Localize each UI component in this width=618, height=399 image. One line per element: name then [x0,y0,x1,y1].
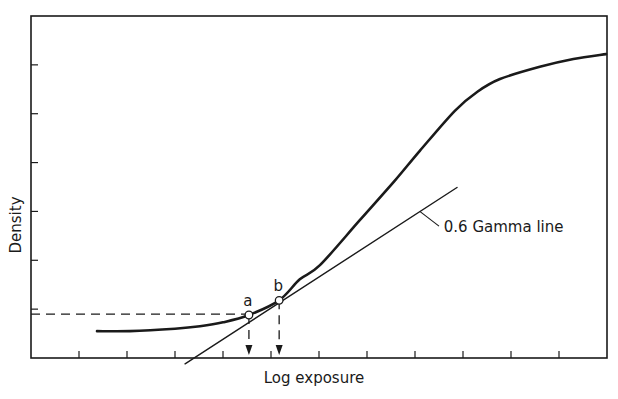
characteristic-curve [97,54,606,331]
x-axis-label: Log exposure [264,369,365,387]
plot-frame [31,16,607,358]
gamma-line [185,187,457,363]
characteristic-curve-chart: ab 0.6 Gamma line Log exposure Density [0,0,618,399]
point-a-marker [245,311,253,319]
point-b-marker [275,297,283,305]
point-b-label: b [273,277,283,295]
drop-a-arrowhead [245,345,252,355]
annotation-leader-line [420,211,439,226]
y-axis-label: Density [7,196,25,253]
point-a-label: a [243,292,252,310]
gamma-line-annotation: 0.6 Gamma line [444,218,564,236]
drop-b-arrowhead [276,345,283,355]
